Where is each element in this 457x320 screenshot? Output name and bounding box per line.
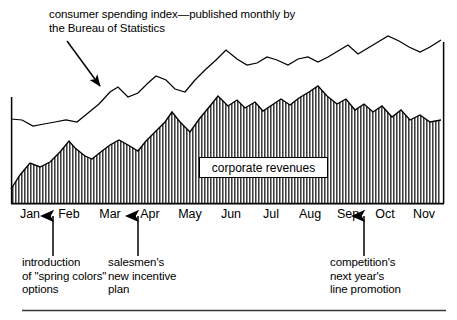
x-axis-label-oct: Oct [375, 207, 394, 221]
x-axis-label-mar: Mar [99, 207, 121, 221]
x-axis-label-may: May [178, 207, 202, 221]
x-axis-label-jan: Jan [20, 207, 40, 221]
annotation-competition-line-promotion: competition's next year's line promotion [330, 256, 455, 297]
series-label-corporate-revenues: corporate revenues [199, 157, 328, 178]
x-axis-label-jul: Jul [263, 207, 279, 221]
x-axis-label-jun: Jun [221, 207, 241, 221]
annotation-consumer-spending-index: consumer spending index—published monthl… [49, 8, 379, 35]
x-axis-label-aug: Aug [299, 207, 321, 221]
x-axis-label-feb: Feb [58, 207, 80, 221]
x-axis-label-sep: Sep [337, 207, 359, 221]
x-axis-label-apr: Apr [140, 207, 159, 221]
annotation-salesmen-incentive-plan: salesmen's new incentive plan [108, 256, 203, 297]
x-axis-label-nov: Nov [413, 207, 435, 221]
series-label-text: corporate revenues [212, 161, 315, 175]
